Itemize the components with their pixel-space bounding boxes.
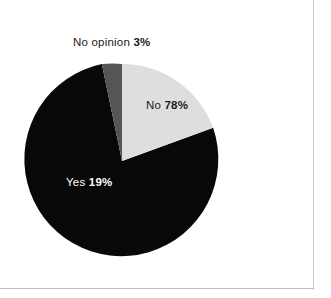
pie-label-no-opinion-text: No opinion <box>73 36 130 48</box>
pie-label-yes: Yes 19% <box>66 176 112 188</box>
pie-label-no: No 78% <box>146 99 188 111</box>
pie-chart-graphic <box>0 0 331 298</box>
pie-chart-figure: No opinion 3% No 78% Yes 19% <box>0 0 331 298</box>
pie-label-yes-value: 19% <box>89 176 113 188</box>
pie-label-no-opinion-value: 3% <box>133 36 150 48</box>
pie-label-no-value: 78% <box>165 99 189 111</box>
pie-label-no-opinion: No opinion 3% <box>73 36 150 48</box>
page-rule-vertical <box>313 0 314 290</box>
pie-label-no-text: No <box>146 99 161 111</box>
page-rule-horizontal <box>0 288 314 289</box>
pie-label-yes-text: Yes <box>66 176 85 188</box>
